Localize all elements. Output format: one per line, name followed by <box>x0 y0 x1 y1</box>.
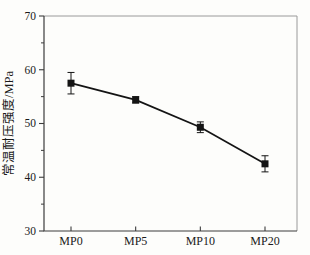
plot-frame-axes <box>44 16 297 231</box>
series-line <box>71 83 265 164</box>
x-tick-label: MP20 <box>250 234 279 248</box>
x-tick-label: MP0 <box>59 234 82 248</box>
data-series <box>68 72 269 171</box>
data-point <box>197 124 204 131</box>
chart-figure: 3040506070MP0MP5MP10MP20 常温耐压强度/MPa <box>0 0 310 255</box>
y-tick-label: 70 <box>25 10 37 22</box>
y-tick-label: 50 <box>25 117 37 129</box>
data-point <box>68 80 75 87</box>
axis-ticks <box>39 16 265 231</box>
axes <box>44 16 297 231</box>
x-tick-label: MP5 <box>124 234 147 248</box>
y-tick-label: 60 <box>25 64 37 76</box>
y-tick-label: 40 <box>25 171 37 183</box>
y-tick-label: 30 <box>25 225 37 237</box>
axis-tick-labels: 3040506070MP0MP5MP10MP20 <box>25 10 280 248</box>
data-point <box>262 160 269 167</box>
line-chart: 3040506070MP0MP5MP10MP20 常温耐压强度/MPa <box>0 0 310 255</box>
data-point <box>132 96 139 103</box>
x-tick-label: MP10 <box>186 234 215 248</box>
plot-frame-light <box>44 16 297 231</box>
y-axis-label: 常温耐压强度/MPa <box>1 71 16 177</box>
